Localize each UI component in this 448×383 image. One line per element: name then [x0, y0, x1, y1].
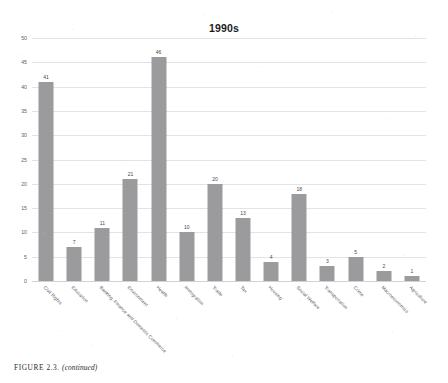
- scan-speckle: [232, 356, 233, 357]
- scan-speckle: [176, 318, 177, 319]
- x-label-slot: Transportation: [313, 283, 341, 363]
- bar[interactable]: [207, 184, 222, 281]
- scan-speckle: [29, 97, 30, 98]
- x-axis-category-label: Agriculture: [408, 285, 428, 305]
- x-label-slot: Crime: [342, 283, 370, 363]
- x-label-slot: Agriculture: [398, 283, 426, 363]
- figure-container: 1990s 05101520253035404550 4171121461020…: [0, 0, 448, 383]
- scan-speckle: [415, 36, 416, 37]
- scan-speckle: [266, 140, 267, 141]
- bars-layer: 4171121461020134183521: [32, 38, 426, 281]
- figure-caption-label: FIGURE 2.3.: [14, 363, 60, 372]
- bar-value-label: 46: [156, 49, 162, 55]
- y-axis-tick-label: 20: [21, 181, 27, 187]
- bar-slot: 3: [313, 38, 341, 281]
- x-axis-category-label: Housing: [268, 285, 284, 301]
- chart-title: 1990s: [0, 22, 448, 34]
- bar-value-label: 5: [354, 249, 357, 255]
- bar-slot: 4: [257, 38, 285, 281]
- y-axis-tick-label: 50: [21, 35, 27, 41]
- bar-slot: 10: [173, 38, 201, 281]
- bar-value-label: 41: [43, 74, 49, 80]
- bar-value-label: 2: [382, 263, 385, 269]
- bar-slot: 13: [229, 38, 257, 281]
- bar-value-label: 13: [240, 210, 246, 216]
- x-label-slot: Health: [145, 283, 173, 363]
- bar-value-label: 3: [326, 258, 329, 264]
- bar-value-label: 4: [270, 254, 273, 260]
- bar-value-label: 11: [100, 220, 105, 226]
- bar[interactable]: [264, 262, 279, 281]
- y-axis-tick-label: 25: [21, 157, 27, 163]
- scan-speckle: [300, 300, 301, 301]
- x-label-slot: Trade: [201, 283, 229, 363]
- bar[interactable]: [376, 271, 391, 281]
- x-label-slot: Social Welfare: [285, 283, 313, 363]
- bar-value-label: 10: [184, 224, 190, 230]
- x-label-slot: Immigration: [173, 283, 201, 363]
- bar-slot: 20: [201, 38, 229, 281]
- y-axis-tick-label: 0: [24, 278, 27, 284]
- scan-speckle: [203, 14, 204, 15]
- scan-speckle: [18, 54, 19, 55]
- bar[interactable]: [95, 228, 110, 281]
- x-label-slot: Civil Rights: [32, 283, 60, 363]
- x-axis-category-label: Education: [71, 285, 90, 304]
- scan-speckle: [44, 233, 45, 234]
- bar[interactable]: [67, 247, 82, 281]
- bar-value-label: 7: [73, 239, 76, 245]
- x-label-slot: Housing: [257, 283, 285, 363]
- x-label-slot: Environment: [116, 283, 144, 363]
- bar[interactable]: [151, 57, 166, 281]
- bar[interactable]: [348, 257, 363, 281]
- y-axis-tick-label: 35: [21, 108, 27, 114]
- scan-speckle: [331, 12, 332, 13]
- scan-speckle: [120, 160, 121, 161]
- x-label-slot: Tax: [229, 283, 257, 363]
- bar-value-label: 21: [128, 171, 134, 177]
- x-label-slot: Education: [60, 283, 88, 363]
- bar-slot: 7: [60, 38, 88, 281]
- gridline: 0: [32, 281, 426, 282]
- x-label-slot: Banking, Finance and Domestic Commerce: [88, 283, 116, 363]
- scan-speckle: [92, 345, 93, 346]
- x-label-slot: Macroeconomics: [370, 283, 398, 363]
- x-axis-labels: Civil RightsEducationBanking, Finance an…: [32, 283, 426, 363]
- scan-speckle: [404, 255, 405, 256]
- scan-speckle: [72, 29, 73, 30]
- scan-speckle: [61, 330, 62, 331]
- x-axis-category-label: Crime: [352, 285, 365, 298]
- bar-slot: 2: [370, 38, 398, 281]
- y-axis-tick-label: 10: [21, 229, 27, 235]
- plot-area: 05101520253035404550 4171121461020134183…: [32, 38, 426, 281]
- y-axis-tick-label: 45: [21, 59, 27, 65]
- bar-value-label: 18: [297, 186, 303, 192]
- bar[interactable]: [236, 218, 251, 281]
- bar-value-label: 20: [212, 176, 218, 182]
- bar[interactable]: [404, 276, 419, 281]
- y-axis-tick-label: 15: [21, 205, 27, 211]
- bar[interactable]: [179, 232, 194, 281]
- figure-caption: FIGURE 2.3. (continued): [14, 363, 97, 372]
- bar-slot: 46: [145, 38, 173, 281]
- bar-value-label: 1: [411, 268, 414, 274]
- figure-caption-continued: (continued): [62, 363, 97, 372]
- bar-slot: 11: [88, 38, 116, 281]
- x-axis-category-label: Health: [155, 285, 168, 298]
- x-axis-category-label: Tax: [240, 285, 249, 294]
- bar-slot: 5: [342, 38, 370, 281]
- scan-speckle: [258, 66, 259, 67]
- bar-slot: 1: [398, 38, 426, 281]
- scan-speckle: [389, 118, 390, 119]
- bar-slot: 18: [285, 38, 313, 281]
- x-axis-category-label: Trade: [211, 285, 223, 297]
- y-axis-tick-label: 40: [21, 84, 27, 90]
- scan-speckle: [141, 236, 142, 237]
- y-axis-tick-label: 30: [21, 132, 27, 138]
- bar[interactable]: [39, 82, 54, 281]
- scan-speckle: [357, 196, 358, 197]
- bar[interactable]: [292, 194, 307, 281]
- bar[interactable]: [320, 266, 335, 281]
- bar[interactable]: [123, 179, 138, 281]
- y-axis-tick-label: 5: [24, 254, 27, 260]
